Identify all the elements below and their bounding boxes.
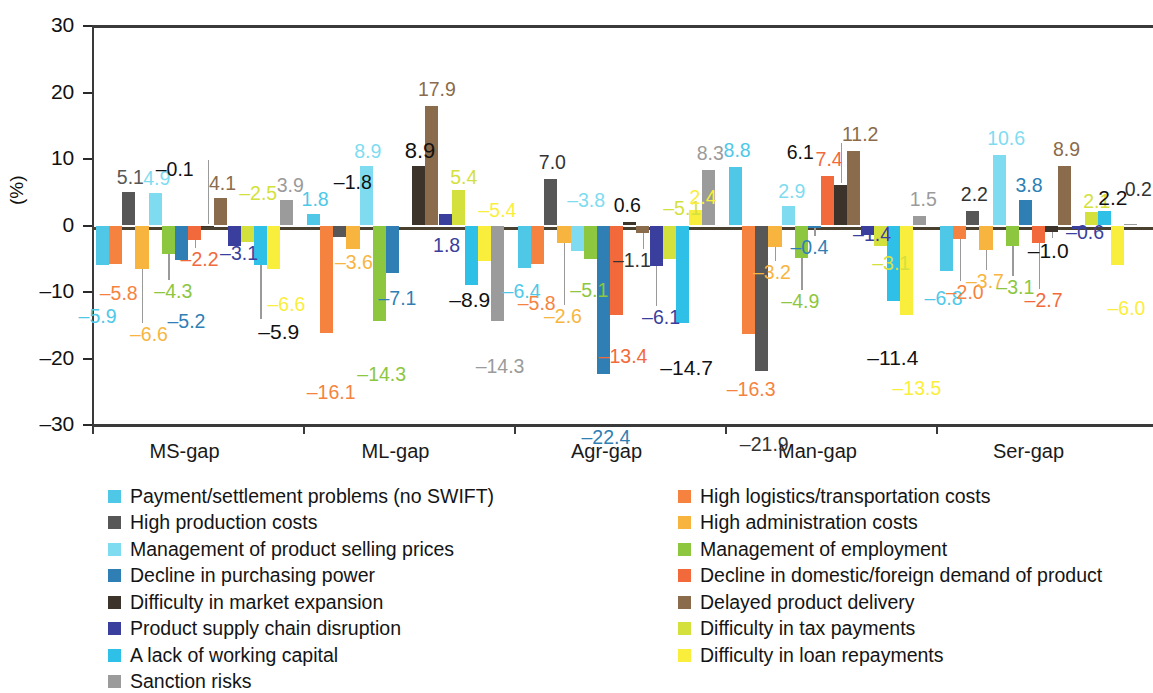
bar[interactable] (1006, 226, 1019, 247)
legend-item[interactable]: Difficulty in loan repayments (678, 642, 1102, 669)
bar[interactable] (1019, 200, 1032, 225)
bar[interactable] (201, 226, 214, 227)
bar[interactable] (241, 226, 254, 243)
legend-label: Product supply chain disruption (130, 619, 401, 639)
bar-value-label: 2.4 (690, 188, 717, 208)
bar-value-label: –16.1 (307, 383, 356, 403)
bar[interactable] (953, 226, 966, 239)
legend-label: Management of product selling prices (130, 540, 454, 560)
bar[interactable] (122, 192, 135, 226)
bar[interactable] (663, 226, 676, 260)
bar-value-label: –3.1 (872, 254, 910, 274)
legend-item[interactable]: Decline in purchasing power (108, 563, 494, 590)
bar[interactable] (478, 226, 491, 262)
bar[interactable] (307, 214, 320, 226)
legend-item[interactable]: High logistics/transportation costs (678, 483, 1102, 510)
bar[interactable] (1045, 226, 1058, 233)
bar-value-label: –0.6 (1066, 223, 1104, 243)
bar-value-label: –13.5 (893, 379, 942, 399)
bar[interactable] (412, 166, 425, 225)
bar-value-label: –3.8 (567, 191, 605, 211)
bar[interactable] (491, 226, 504, 321)
bar-value-label: –5.9 (79, 307, 117, 327)
bar[interactable] (149, 193, 162, 226)
legend-item[interactable]: Payment/settlement problems (no SWIFT) (108, 483, 494, 510)
bar[interactable] (135, 226, 148, 270)
bar[interactable] (1124, 224, 1137, 225)
legend-swatch-icon (678, 516, 691, 529)
bar[interactable] (531, 226, 544, 265)
bar[interactable] (188, 226, 201, 241)
bar-value-label: –2.6 (544, 307, 582, 327)
bar[interactable] (834, 185, 847, 226)
bar[interactable] (623, 222, 636, 226)
legend-item[interactable]: Difficulty in tax payments (678, 616, 1102, 643)
bar-value-label: 2.2 (1098, 187, 1127, 208)
bar[interactable] (966, 211, 979, 226)
legend-label: Decline in purchasing power (130, 566, 375, 586)
bar-value-label: –14.3 (476, 357, 525, 377)
bar[interactable] (425, 106, 438, 225)
bar-value-label: –6.1 (642, 308, 680, 328)
bar[interactable] (346, 226, 359, 250)
bar[interactable] (162, 226, 175, 255)
bar[interactable] (913, 216, 926, 226)
bar[interactable] (452, 190, 465, 226)
bar[interactable] (729, 167, 742, 226)
bar-value-label: –8.9 (449, 289, 490, 310)
bar-value-label: –7.1 (378, 289, 416, 309)
bar[interactable] (267, 226, 280, 270)
bar[interactable] (993, 155, 1006, 225)
legend-item[interactable]: Difficulty in market expansion (108, 589, 494, 616)
bar-value-label: 2.2 (961, 185, 988, 205)
bar[interactable] (1111, 226, 1124, 266)
bar-value-label: 3.8 (1015, 176, 1042, 196)
legend-swatch-icon (678, 596, 691, 609)
bar[interactable] (333, 226, 346, 238)
bar[interactable] (755, 226, 768, 372)
bar[interactable] (96, 226, 109, 265)
bar[interactable] (280, 200, 293, 226)
bar-value-label: –14.3 (357, 365, 406, 385)
label-leader-line (801, 258, 802, 290)
bar[interactable] (465, 226, 478, 285)
bar[interactable] (544, 179, 557, 226)
bar-value-label: 1.8 (302, 190, 329, 210)
legend-item[interactable]: Delayed product delivery (678, 589, 1102, 616)
legend-item[interactable]: High administration costs (678, 510, 1102, 537)
bar[interactable] (557, 226, 570, 243)
bar[interactable] (439, 214, 452, 226)
legend-item[interactable]: A lack of working capital (108, 642, 494, 669)
legend-item[interactable]: Management of product selling prices (108, 536, 494, 563)
bar[interactable] (650, 226, 663, 267)
bar[interactable] (940, 226, 953, 271)
bar[interactable] (386, 226, 399, 273)
bar[interactable] (636, 226, 649, 233)
bar-value-label: –16.3 (727, 380, 776, 400)
bar[interactable] (1058, 166, 1071, 225)
bar[interactable] (571, 226, 584, 251)
legend-item[interactable]: Sanction risks (108, 669, 494, 693)
bar-value-label: –21.9 (740, 435, 789, 455)
legend-item[interactable]: Decline in domestic/foreign demand of pr… (678, 563, 1102, 590)
bar[interactable] (847, 151, 860, 225)
bar[interactable] (782, 206, 795, 225)
legend-label: Difficulty in loan repayments (700, 646, 944, 666)
legend-label: Delayed product delivery (700, 593, 915, 613)
bar[interactable] (584, 226, 597, 260)
bar[interactable] (768, 226, 781, 247)
bar[interactable] (821, 176, 834, 225)
bar[interactable] (320, 226, 333, 333)
legend-item[interactable]: Management of employment (678, 536, 1102, 563)
legend-item[interactable]: High production costs (108, 510, 494, 537)
bar-value-label: 5.1 (117, 168, 144, 188)
bar[interactable] (214, 198, 227, 225)
legend-item[interactable]: Product supply chain disruption (108, 616, 494, 643)
bar-value-label: –6.0 (1108, 299, 1146, 319)
bar[interactable] (109, 226, 122, 265)
legend-label: Payment/settlement problems (no SWIFT) (130, 487, 494, 507)
bar[interactable] (979, 226, 992, 251)
x-tick-mark (92, 424, 94, 434)
bar[interactable] (518, 226, 531, 269)
legend-swatch-icon (678, 569, 691, 582)
